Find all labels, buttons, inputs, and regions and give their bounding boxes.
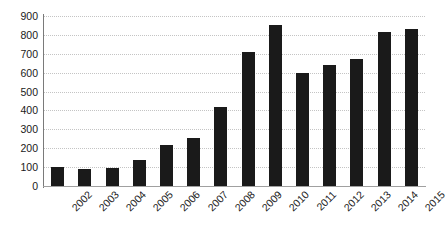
y-axis-tick-label: 500 bbox=[0, 87, 38, 98]
bar bbox=[323, 65, 336, 186]
x-axis-tick-label: 2011 bbox=[314, 189, 337, 212]
bar bbox=[214, 107, 227, 186]
gridline bbox=[44, 148, 425, 149]
y-axis-tick-label: 0 bbox=[0, 181, 38, 192]
gridline bbox=[44, 54, 425, 55]
gridline bbox=[44, 16, 425, 17]
x-axis-tick-label: 2003 bbox=[97, 189, 121, 213]
x-axis-tick-label: 2008 bbox=[233, 189, 257, 213]
bar bbox=[106, 168, 119, 186]
x-axis-tick-label: 2004 bbox=[124, 189, 148, 213]
bar bbox=[296, 73, 309, 186]
x-axis-tick-label: 2005 bbox=[151, 189, 175, 213]
y-axis-line bbox=[43, 14, 44, 188]
bar bbox=[350, 59, 363, 186]
bar bbox=[187, 138, 200, 186]
bar bbox=[378, 32, 391, 186]
gridline bbox=[44, 167, 425, 168]
bar bbox=[242, 52, 255, 186]
y-axis-tick-label: 900 bbox=[0, 11, 38, 22]
x-axis-tick-label: 2014 bbox=[396, 189, 420, 213]
gridline bbox=[44, 73, 425, 74]
x-axis-tick-label: 2002 bbox=[69, 189, 93, 213]
x-axis-tick-label: 2015 bbox=[423, 189, 447, 213]
bar bbox=[133, 160, 146, 186]
x-axis-tick-label: 2010 bbox=[287, 189, 311, 213]
bar bbox=[51, 167, 64, 186]
x-axis-line bbox=[43, 186, 426, 187]
bar bbox=[405, 29, 418, 186]
y-axis-tick-label: 300 bbox=[0, 124, 38, 135]
x-axis-tick-label: 2013 bbox=[369, 189, 393, 213]
x-axis-tick-label: 2012 bbox=[342, 189, 366, 213]
x-axis-tick-label: 2007 bbox=[206, 189, 230, 213]
x-axis-tick-label: 2006 bbox=[178, 189, 202, 213]
gridline bbox=[44, 110, 425, 111]
gridline bbox=[44, 129, 425, 130]
y-axis-tick-label: 400 bbox=[0, 105, 38, 116]
y-axis-tick-label: 200 bbox=[0, 143, 38, 154]
y-axis-tick-label: 600 bbox=[0, 68, 38, 79]
gridline bbox=[44, 35, 425, 36]
y-axis-tick-label: 700 bbox=[0, 49, 38, 60]
bar bbox=[269, 25, 282, 187]
y-axis-tick-label: 100 bbox=[0, 162, 38, 173]
plot-area bbox=[44, 16, 425, 186]
x-axis-tick-label: 2009 bbox=[260, 189, 284, 213]
bar bbox=[160, 145, 173, 186]
bar bbox=[78, 169, 91, 186]
y-axis-tick-label: 800 bbox=[0, 30, 38, 41]
gridline bbox=[44, 92, 425, 93]
